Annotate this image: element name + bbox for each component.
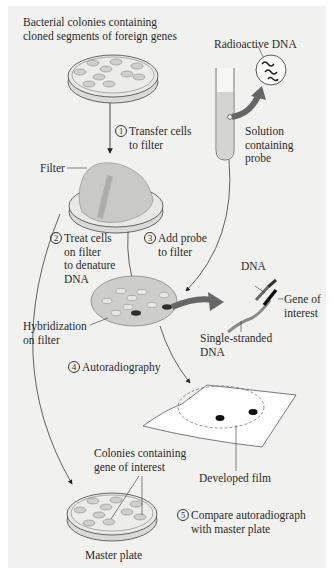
master-plate-label: Master plate [85, 549, 142, 563]
filter-plate-icon [67, 163, 163, 233]
step-4-label: 4Autoradiography [68, 361, 161, 375]
bacterial-colonies-plate-icon [68, 55, 158, 103]
step-1-label: 1Transfer cells to filter [115, 125, 192, 152]
test-tube-icon [216, 68, 234, 160]
master-plate-icon [67, 476, 157, 541]
step-2-label: 2Treat cells on filter to denature DNA [50, 232, 115, 286]
radioactive-dna-label: Radioactive DNA [214, 38, 297, 52]
dna-hybrid-detail-icon [228, 280, 283, 332]
gene-of-interest-label: Gene of interest [284, 293, 321, 320]
colonies-caption-line1: Bacterial colonies containing [23, 16, 177, 30]
dna-label: DNA [241, 260, 266, 274]
developed-film-label: Developed film [199, 472, 271, 486]
step-1-number: 1 [115, 125, 127, 137]
hybridization-label: Hybridization on filter [23, 320, 87, 347]
solution-label: Solution containing probe [245, 125, 294, 166]
radioactive-dna-icon [256, 46, 286, 85]
step-5-label: 5Compare autoradiograph with master plat… [177, 509, 306, 536]
filter-label: Filter [40, 162, 65, 176]
step-3-label: 3Add probe to filter [144, 232, 207, 259]
colonies-caption: Bacterial colonies containing cloned seg… [23, 16, 177, 43]
diagram-artwork [0, 0, 334, 574]
colonies-gene-label: Colonies containing gene of interest [94, 447, 186, 474]
single-stranded-label: Single-stranded DNA [200, 332, 272, 359]
colonies-caption-line2: cloned segments of foreign genes [23, 30, 177, 44]
